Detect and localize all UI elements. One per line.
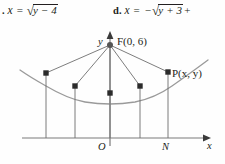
curve-point [107, 90, 112, 95]
y-axis-label: y [97, 36, 103, 47]
curve-points [43, 69, 170, 95]
answer-choice-row: . x = √y − 4 d. x = −√y + 3+ [0, 0, 225, 24]
textbook-figure-page: . x = √y − 4 d. x = −√y + 3+ [0, 0, 225, 164]
curve-point [72, 83, 77, 88]
focus-point [107, 42, 113, 48]
answer-choice-c: . x = √y − 4 [2, 3, 58, 19]
curve-point [137, 83, 142, 88]
choice-c-variable: x [8, 4, 13, 16]
choice-d-label: d. [113, 5, 122, 16]
parabola-figure: F(0, 6) P(x, y) y x O N [0, 24, 225, 164]
point-p-label: P(x, y) [172, 67, 202, 80]
curve-point [43, 70, 48, 75]
choice-c-label: . [2, 5, 5, 16]
x-axis [22, 135, 211, 142]
answer-choice-d: d. x = −√y + 3+ [113, 3, 191, 19]
choice-d-minus: − [144, 4, 152, 16]
choice-d-radicand: y + 3 [158, 4, 183, 17]
choice-c-radical: √y − 4 [27, 3, 58, 19]
curve-point-p [165, 69, 170, 74]
choice-d-variable: x [125, 4, 130, 16]
foot-point-label: N [161, 141, 170, 152]
choice-d-trailing-plus: + [183, 4, 191, 16]
choice-d-equals: = [133, 4, 141, 16]
focal-radii [46, 45, 168, 93]
origin-label: O [98, 141, 106, 152]
drop-lines [46, 72, 168, 138]
choice-c-equals: = [16, 4, 24, 16]
choice-d-radical: √y + 3 [152, 3, 183, 19]
choice-c-radicand: y − 4 [33, 4, 58, 17]
x-axis-label: x [206, 140, 212, 151]
focus-label: F(0, 6) [117, 35, 147, 48]
